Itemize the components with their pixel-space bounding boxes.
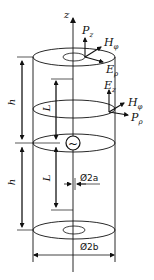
z-axis-label: z — [63, 9, 70, 20]
inner-diameter-label: Ø2a — [80, 173, 98, 183]
h-phi-top-label: Hφ — [103, 36, 119, 51]
e-z-label: Ez — [103, 79, 116, 94]
l-lower-label: L — [41, 174, 52, 182]
p-rho-label: Pρ — [130, 111, 143, 126]
e-rho-label: Eρ — [105, 63, 119, 78]
bottom-inner-ellipse — [63, 226, 85, 234]
bottom-outer-ellipse — [33, 221, 115, 239]
h-upper-label: h — [6, 99, 17, 105]
top-outer-ellipse — [33, 48, 115, 66]
p-rho-vector — [109, 112, 128, 115]
source-symbol: ~ — [68, 137, 78, 151]
h-lower-label: h — [6, 179, 17, 185]
p-z-label: Pz — [81, 24, 93, 39]
h-phi-side-label: Hφ — [127, 96, 143, 111]
e-rho-vector — [85, 57, 103, 62]
coaxial-antenna-diagram: ~ z Pz Hφ Eρ Ez Hφ Pρ h h L L Ø2a Ø2b — [0, 0, 154, 280]
top-inner-ellipse — [63, 53, 85, 61]
outer-diameter-label: Ø2b — [80, 242, 99, 252]
l-upper-label: L — [41, 104, 52, 112]
h-phi-side-vector — [109, 103, 124, 112]
